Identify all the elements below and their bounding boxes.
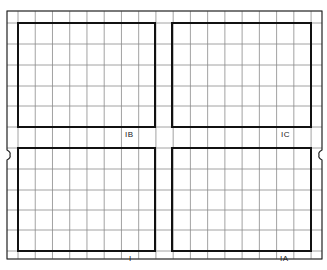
panel-bottom-right (172, 148, 311, 251)
grid-sheet (0, 0, 327, 270)
panel-top-left (18, 23, 155, 127)
panel-label-1a: IA (280, 254, 289, 263)
panel-bottom-left (18, 148, 155, 251)
panel-label-1c: IC (281, 130, 290, 139)
grid-lines (7, 11, 322, 259)
panel-label-1: I (129, 254, 132, 263)
panel-label-1b: IB (125, 130, 134, 139)
outer-frame (7, 11, 322, 259)
panel-top-right (172, 23, 311, 127)
